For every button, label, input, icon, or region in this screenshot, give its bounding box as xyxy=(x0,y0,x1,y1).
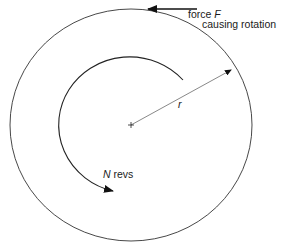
radius-label: r xyxy=(178,98,182,110)
revs-word: revs xyxy=(114,168,134,180)
revs-symbol: N xyxy=(103,168,111,180)
revs-label: N revs xyxy=(103,168,133,180)
diagram-canvas: force F causing rotation r N revs xyxy=(0,0,283,245)
force-description: causing rotation xyxy=(202,18,276,30)
center-cross-icon xyxy=(128,122,134,128)
